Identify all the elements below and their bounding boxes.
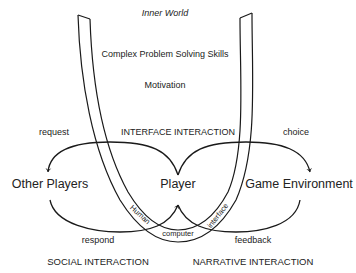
respond-label: respond <box>82 236 115 245</box>
interface-interaction-label: INTERFACE INTERACTION <box>121 128 235 137</box>
inner-world-label: Inner World <box>142 9 189 18</box>
node-other-players: Other Players <box>12 178 88 191</box>
node-player: Player <box>160 178 195 191</box>
choice-label: choice <box>283 128 309 137</box>
motivation-label: Motivation <box>144 81 185 90</box>
respond-arrow <box>50 200 178 232</box>
choice-arrow <box>178 142 310 175</box>
narrative-interaction-label: NARRATIVE INTERACTION <box>193 257 314 267</box>
feedback-label: feedback <box>235 236 272 245</box>
node-game-environment: Game Environment <box>245 178 353 191</box>
request-label: request <box>39 128 69 137</box>
feedback-arrow <box>178 200 300 232</box>
hci-game-interaction-diagram: Human computer interface Inner World Com… <box>0 0 356 273</box>
tube-label-computer: computer <box>162 230 193 238</box>
social-interaction-label: SOCIAL INTERACTION <box>47 257 149 267</box>
skills-label: Complex Problem Solving Skills <box>101 50 228 59</box>
